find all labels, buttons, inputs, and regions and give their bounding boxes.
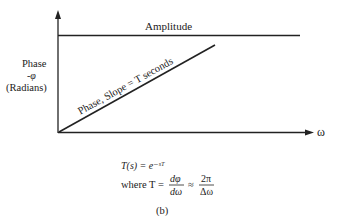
approx-sign: ≈ [188, 179, 194, 190]
x-axis-label: ω [317, 125, 325, 140]
y-axis-label-phase: Phase [22, 58, 47, 69]
frac-2pi-numerator: 2π [201, 173, 211, 184]
y-axis-label-units: (Radians) [6, 82, 47, 93]
frac-2pi-denominator: Δω [200, 186, 213, 197]
phase-line [59, 45, 215, 132]
where-prefix: where T = [121, 179, 164, 190]
transfer-function-equation: T(s) = e⁻ˢᵀ [121, 160, 165, 171]
y-axis-arrow-icon [55, 10, 61, 19]
figure-caption: (b) [156, 205, 168, 216]
frac-dphi-numerator: dφ [170, 173, 181, 184]
amplitude-label: Amplitude [145, 20, 192, 32]
frac-dphi-denominator: dω [170, 186, 182, 197]
y-axis-label-symbol: -φ [27, 70, 36, 81]
x-axis-arrow-icon [305, 130, 314, 136]
delay-diagram-graphics [0, 0, 337, 216]
